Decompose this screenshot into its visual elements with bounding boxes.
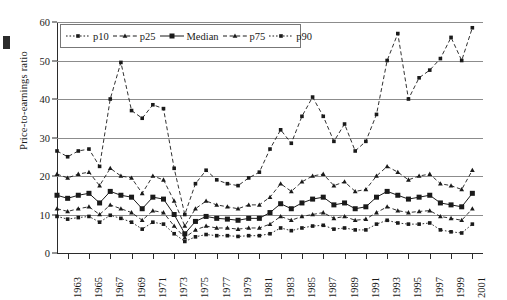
data-point-marker [353, 228, 357, 232]
data-point-marker [140, 206, 145, 211]
x-tick-mark [174, 253, 175, 259]
x-tick-mark [472, 253, 473, 259]
series-layer [57, 22, 483, 253]
y-tick-label: 50 [40, 55, 51, 66]
legend-swatch-icon [65, 31, 91, 41]
data-point-marker [87, 170, 92, 174]
chart-legend: p10p25Medianp75p90 [60, 24, 301, 48]
x-tick-mark [345, 253, 346, 259]
data-point-marker [375, 113, 379, 117]
data-point-marker [214, 216, 219, 221]
x-tick-label: 1981 [263, 277, 274, 298]
data-point-marker [150, 174, 155, 178]
data-point-marker [427, 172, 432, 176]
x-tick-mark [89, 253, 90, 259]
data-point-marker [471, 222, 475, 226]
data-point-marker [449, 36, 453, 40]
data-point-marker [299, 200, 304, 205]
legend-item-median[interactable]: Median [159, 31, 219, 42]
x-tick-label: 2001 [476, 277, 487, 298]
y-tick-label: 40 [40, 94, 51, 105]
data-point-marker [268, 210, 273, 215]
legend-item-p75[interactable]: p75 [222, 31, 266, 42]
data-point-marker [151, 103, 155, 107]
data-point-marker [151, 220, 155, 224]
data-point-marker [342, 214, 347, 218]
data-point-marker [310, 174, 315, 178]
data-point-marker [108, 189, 113, 194]
data-point-marker [290, 141, 294, 145]
data-point-marker [118, 193, 123, 198]
data-point-marker [129, 195, 134, 200]
data-point-marker [449, 230, 453, 234]
data-point-marker [278, 214, 283, 218]
data-point-marker [76, 34, 80, 38]
x-tick-mark [387, 253, 388, 259]
series-p25 [55, 202, 475, 239]
series-median [55, 189, 475, 236]
data-point-marker [331, 202, 336, 207]
data-point-marker [268, 232, 272, 236]
data-point-marker [225, 204, 230, 208]
x-tick-mark [408, 253, 409, 259]
x-tick-label: 1963 [72, 277, 83, 298]
data-point-marker [204, 214, 209, 219]
data-point-marker [204, 233, 208, 237]
x-axis-tick-labels: 1963196519671969197119731975197719791981… [57, 262, 483, 300]
data-point-marker [470, 206, 475, 210]
data-point-marker [87, 147, 91, 151]
data-point-marker [374, 210, 379, 214]
data-point-marker [108, 166, 113, 170]
data-point-marker [396, 221, 400, 225]
data-point-marker [428, 68, 432, 72]
legend-item-p10[interactable]: p10 [65, 31, 109, 42]
data-point-marker [66, 155, 70, 159]
data-point-marker [289, 206, 294, 211]
y-tick-label: 20 [40, 171, 51, 182]
x-tick-mark [110, 253, 111, 259]
data-point-marker [140, 218, 145, 222]
x-tick-mark [451, 253, 452, 259]
data-point-marker [193, 219, 198, 224]
data-point-marker [342, 179, 347, 183]
x-tick-mark [68, 253, 69, 259]
x-axis-ticks [57, 253, 483, 260]
data-point-marker [449, 183, 454, 187]
data-point-marker [439, 228, 443, 232]
data-point-marker [363, 187, 368, 191]
data-point-marker [385, 189, 390, 194]
series-line [57, 28, 472, 215]
legend-item-p90[interactable]: p90 [268, 31, 312, 42]
data-point-marker [460, 59, 464, 63]
data-point-marker [364, 228, 368, 232]
data-point-marker [417, 222, 421, 226]
data-point-marker [55, 172, 60, 176]
data-point-marker [150, 195, 155, 200]
data-point-marker [428, 221, 432, 225]
data-point-marker [183, 240, 187, 244]
data-point-marker [300, 115, 304, 119]
x-tick-label: 1965 [93, 277, 104, 298]
data-point-marker [55, 193, 60, 198]
data-point-marker [311, 95, 315, 99]
data-point-marker [375, 222, 379, 226]
data-point-marker [77, 216, 81, 220]
data-point-marker [321, 195, 326, 200]
data-point-marker [204, 224, 209, 228]
x-tick-mark [281, 253, 282, 259]
data-point-marker [108, 97, 112, 101]
x-tick-label: 1995 [412, 277, 423, 298]
data-point-marker [66, 217, 70, 221]
data-point-marker [55, 215, 59, 219]
x-tick-label: 1967 [114, 277, 125, 298]
data-point-marker [236, 184, 240, 188]
data-point-marker [140, 227, 144, 231]
data-point-marker [364, 140, 368, 144]
data-point-marker [385, 204, 390, 208]
data-point-marker [162, 222, 166, 226]
plot-area: 0102030405060 [57, 22, 483, 253]
data-point-marker [417, 174, 422, 178]
legend-swatch-icon [268, 31, 294, 41]
legend-item-p25[interactable]: p25 [112, 31, 156, 42]
x-tick-label: 1985 [306, 277, 317, 298]
